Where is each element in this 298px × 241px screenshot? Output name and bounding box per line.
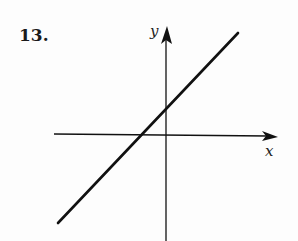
figure: 13. y x (0, 0, 298, 241)
x-axis-label: x (265, 142, 273, 160)
plotted-line (58, 33, 238, 223)
y-axis-label: y (150, 22, 158, 40)
coordinate-plot (0, 0, 298, 241)
x-axis (54, 134, 268, 136)
